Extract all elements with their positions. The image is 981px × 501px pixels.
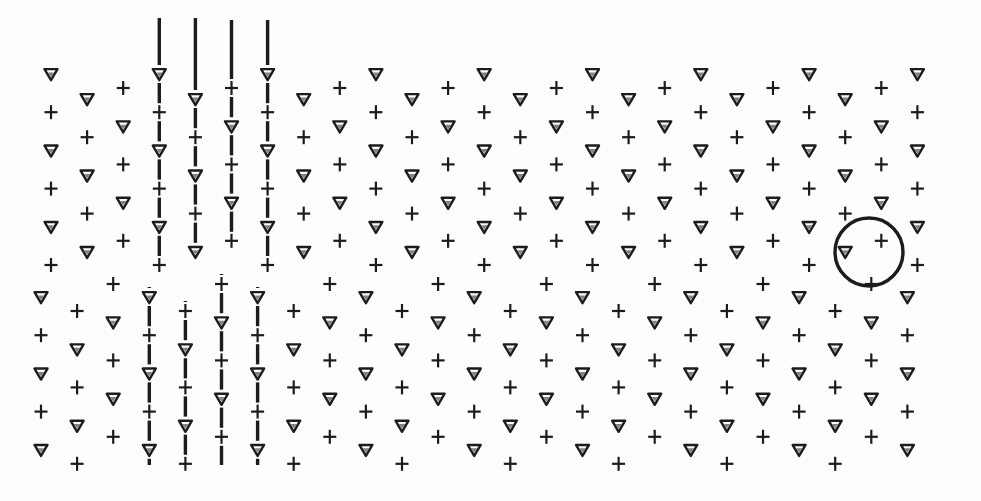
- triangle-marker: [323, 317, 336, 328]
- plus-marker: [117, 157, 130, 171]
- plus-marker: [35, 328, 48, 342]
- plus-marker: [839, 130, 852, 144]
- symbol-column: [81, 94, 94, 258]
- triangle-marker: [730, 247, 743, 258]
- triangle-marker: [468, 445, 481, 456]
- triangle-marker: [875, 121, 888, 132]
- plus-marker: [333, 157, 346, 171]
- plus-marker: [540, 353, 553, 367]
- triangle-marker: [406, 94, 419, 105]
- plus-marker: [179, 380, 192, 394]
- triangle-marker: [658, 121, 671, 132]
- triangle-marker: [576, 369, 589, 380]
- triangle-marker: [875, 198, 888, 209]
- plus-marker: [225, 157, 238, 171]
- symbol-column: [71, 304, 84, 471]
- plus-marker: [839, 207, 852, 221]
- triangle-marker: [478, 222, 491, 233]
- triangle-marker: [189, 94, 202, 105]
- triangle-marker: [612, 421, 625, 432]
- plus-marker: [396, 380, 409, 394]
- triangle-marker: [514, 94, 527, 105]
- triangle-marker: [359, 369, 372, 380]
- plus-marker: [658, 157, 671, 171]
- plus-marker: [550, 234, 563, 248]
- triangle-marker: [911, 69, 924, 80]
- symbol-column: [658, 81, 671, 248]
- triangle-marker: [504, 421, 517, 432]
- triangle-marker: [694, 222, 707, 233]
- triangle-marker: [839, 171, 852, 182]
- plus-marker: [803, 182, 816, 196]
- plus-marker: [406, 207, 419, 221]
- triangle-marker: [478, 69, 491, 80]
- plus-marker: [576, 405, 589, 419]
- plus-marker: [586, 105, 599, 119]
- plus-marker: [45, 258, 58, 272]
- plus-marker: [189, 207, 202, 221]
- triangle-marker: [865, 394, 878, 405]
- plus-marker: [153, 182, 166, 196]
- triangle-marker: [803, 146, 816, 157]
- triangle-marker: [694, 69, 707, 80]
- triangle-marker: [550, 121, 563, 132]
- plus-marker: [369, 105, 382, 119]
- triangle-marker: [622, 171, 635, 182]
- plus-marker: [684, 405, 697, 419]
- triangle-marker: [117, 121, 130, 132]
- triangle-marker: [478, 146, 491, 157]
- symbol-column: [514, 94, 527, 258]
- diagram-canvas: [0, 0, 981, 501]
- plus-marker: [323, 277, 336, 291]
- plus-marker: [261, 105, 274, 119]
- plus-marker: [793, 328, 806, 342]
- plus-marker: [71, 304, 84, 318]
- triangle-marker: [767, 121, 780, 132]
- triangle-marker: [369, 69, 382, 80]
- symbol-column: [550, 81, 563, 248]
- plus-marker: [107, 277, 120, 291]
- plus-marker: [694, 182, 707, 196]
- triangle-marker: [468, 292, 481, 303]
- plus-marker: [540, 430, 553, 444]
- triangle-marker: [45, 69, 58, 80]
- triangle-marker: [514, 171, 527, 182]
- triangle-marker: [143, 445, 156, 456]
- triangle-marker: [143, 369, 156, 380]
- plus-marker: [504, 457, 517, 471]
- triangle-marker: [71, 344, 84, 355]
- symbol-column: [612, 304, 625, 471]
- plus-marker: [143, 328, 156, 342]
- plus-marker: [323, 430, 336, 444]
- plus-marker: [359, 328, 372, 342]
- plus-marker: [189, 130, 202, 144]
- triangle-marker: [911, 146, 924, 157]
- plus-marker: [251, 328, 264, 342]
- triangle-marker: [287, 421, 300, 432]
- plus-marker: [478, 258, 491, 272]
- symbol-column: [901, 292, 914, 456]
- plus-marker: [442, 81, 455, 95]
- plus-marker: [153, 105, 166, 119]
- triangle-marker: [839, 247, 852, 258]
- plus-marker: [612, 380, 625, 394]
- plus-marker: [369, 258, 382, 272]
- triangle-marker: [757, 317, 770, 328]
- symbol-column: [287, 304, 300, 471]
- symbol-column: [694, 69, 707, 272]
- triangle-marker: [803, 222, 816, 233]
- triangle-marker: [648, 394, 661, 405]
- triangle-marker: [612, 344, 625, 355]
- symbol-column: [730, 94, 743, 258]
- plus-marker: [504, 304, 517, 318]
- plus-marker: [865, 353, 878, 367]
- plus-marker: [287, 380, 300, 394]
- triangle-marker: [514, 247, 527, 258]
- triangle-marker: [333, 198, 346, 209]
- plus-marker: [720, 380, 733, 394]
- plus-marker: [875, 81, 888, 95]
- plus-marker: [432, 430, 445, 444]
- triangle-marker: [369, 146, 382, 157]
- plus-marker: [117, 234, 130, 248]
- plus-marker: [215, 353, 228, 367]
